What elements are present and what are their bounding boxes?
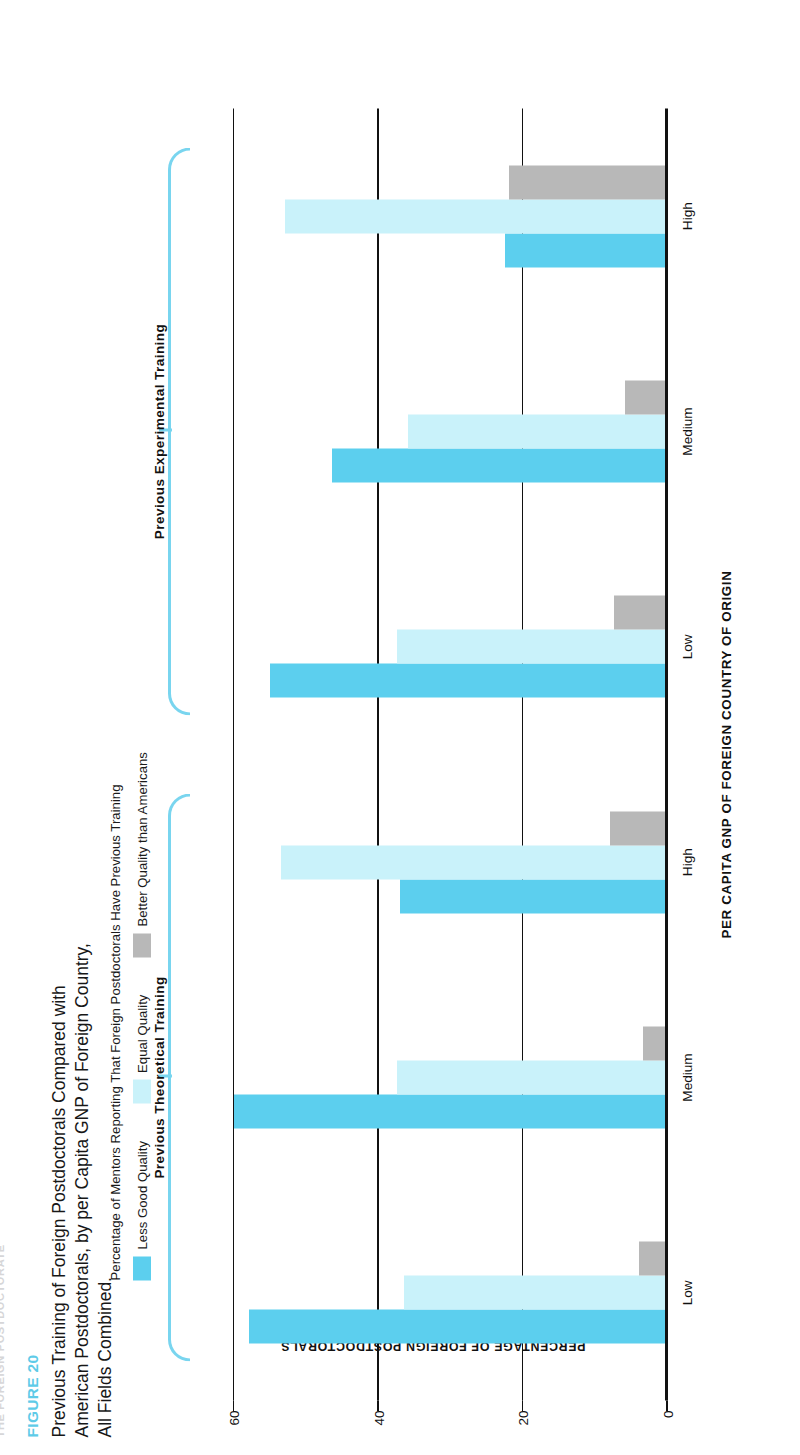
legend-swatch-less-good (133, 1256, 151, 1280)
bar-slot (198, 448, 668, 482)
legend-swatch-equal (133, 1080, 151, 1104)
legend-item-equal: Equal Quality (133, 994, 151, 1103)
category-label: Low (680, 539, 695, 754)
bar-slot (198, 1275, 668, 1309)
bar-chart-plot: PERCENTAGE OF FOREIGN POSTDOCTORALS PER … (198, 108, 668, 1400)
group-brace (168, 147, 190, 715)
bar[interactable] (505, 233, 668, 267)
category-label: High (680, 754, 695, 969)
axis-baseline (665, 108, 668, 1400)
figure-number: FIGURE 20 (24, 917, 42, 1437)
bar[interactable] (614, 595, 668, 629)
bar[interactable] (397, 1060, 668, 1094)
bar-slot (198, 595, 668, 629)
bar-slot (198, 1241, 668, 1275)
legend-header: Percentage of Mentors Reporting That For… (108, 784, 123, 1280)
category-label: High (680, 108, 695, 323)
bar[interactable] (404, 1275, 668, 1309)
bar[interactable] (281, 845, 668, 879)
y-tick-label: 40 (371, 1410, 386, 1440)
bar[interactable] (397, 629, 668, 663)
group-title: Previous Theoretical Training (152, 754, 167, 1400)
category-group-high: High (198, 108, 668, 323)
bar-groups: Previous Theoretical TrainingLowMediumHi… (198, 108, 668, 1400)
bar-slot (198, 629, 668, 663)
x-axis-title: PER CAPITA GNP OF FOREIGN COUNTRY OF ORI… (719, 108, 734, 1400)
category-label: Low (680, 1185, 695, 1400)
bar-slot (198, 663, 668, 697)
bar-slot (198, 414, 668, 448)
legend-label-better: Better Quality than Americans (135, 752, 150, 926)
bar-slot (198, 879, 668, 913)
bar[interactable] (332, 448, 668, 482)
bar-slot (198, 1026, 668, 1060)
bar[interactable] (270, 663, 668, 697)
supergroup-experimental: Previous Experimental TrainingLowMediumH… (198, 108, 668, 754)
category-group-low: Low (198, 1185, 668, 1400)
legend-swatch-better (133, 933, 151, 957)
y-tick-mark (666, 1400, 668, 1411)
y-tick-mark (522, 1400, 524, 1411)
bar-slot (198, 165, 668, 199)
bar-slot (198, 811, 668, 845)
category-group-medium: Medium (198, 969, 668, 1184)
legend-item-less-good: Less Good Quality (133, 1141, 151, 1281)
bar-slot (198, 380, 668, 414)
y-tick-label: 20 (516, 1410, 531, 1440)
bar[interactable] (509, 165, 668, 199)
bar-slot (198, 199, 668, 233)
group-title: Previous Experimental Training (152, 108, 167, 754)
legend: Less Good Quality Equal Quality Better Q… (133, 722, 151, 1280)
bar-slot (198, 845, 668, 879)
category-group-medium: Medium (198, 323, 668, 538)
y-tick-label: 0 (661, 1410, 676, 1440)
y-tick-mark (233, 1400, 235, 1411)
bar-slot (198, 1094, 668, 1128)
bar-slot (198, 233, 668, 267)
running-header: THE FOREIGN POSTDOCTORATE (0, 0, 6, 1455)
group-brace (168, 793, 190, 1361)
bar-slot (198, 1060, 668, 1094)
supergroup-theoretical: Previous Theoretical TrainingLowMediumHi… (198, 754, 668, 1400)
figure-title: Previous Training of Foreign Postdoctora… (48, 927, 117, 1437)
category-group-high: High (198, 754, 668, 969)
category-label: Medium (680, 969, 695, 1184)
bar-slot (198, 1309, 668, 1343)
legend-label-less-good: Less Good Quality (135, 1141, 150, 1250)
bar[interactable] (610, 811, 668, 845)
bar[interactable] (408, 414, 668, 448)
category-label: Medium (680, 323, 695, 538)
category-group-low: Low (198, 539, 668, 754)
y-tick-mark (377, 1400, 379, 1411)
bar[interactable] (234, 1094, 668, 1128)
legend-label-equal: Equal Quality (135, 994, 150, 1072)
bar[interactable] (249, 1309, 668, 1343)
bar[interactable] (639, 1241, 668, 1275)
figure-caption: FIGURE 20 Previous Training of Foreign P… (24, 917, 117, 1437)
bar[interactable] (625, 380, 668, 414)
y-tick-label: 60 (227, 1410, 242, 1440)
figure-rotated-canvas: THE FOREIGN POSTDOCTORATE FIGURE 20 Prev… (0, 0, 800, 1455)
bar[interactable] (400, 879, 668, 913)
legend-item-better: Better Quality than Americans (133, 752, 151, 957)
bar[interactable] (285, 199, 668, 233)
